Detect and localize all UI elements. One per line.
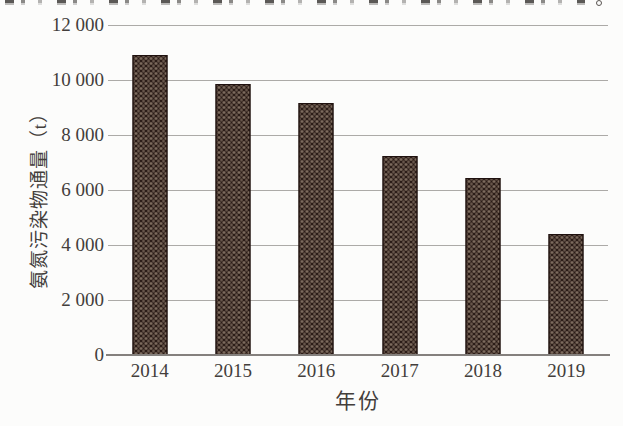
y-tick-label: 2 000 [24,290,104,310]
x-axis-line [106,354,610,356]
x-tick-label: 2015 [191,361,274,381]
x-tick-label: 2014 [108,361,191,381]
bar-2018 [465,178,500,355]
category-slot-2015: 2015 [191,25,274,355]
y-tick-label: 4 000 [24,235,104,255]
y-tick-label: 8 000 [24,125,104,145]
x-tick-label: 2016 [275,361,358,381]
y-tick-label: 6 000 [24,180,104,200]
y-tick-label: 10 000 [24,70,104,90]
cropped-text-period-glyph [596,0,602,6]
x-tick-label: 2018 [441,361,524,381]
category-slot-2016: 2016 [275,25,358,355]
bar-2014 [132,55,167,355]
y-tick-label: 0 [24,345,104,365]
ammonia-flux-bar-chart: 氨氮污染物通量（t） 201420152016201720182019 12 0… [0,0,623,426]
plot-area: 201420152016201720182019 [108,25,608,355]
cropped-text-remnant [5,0,585,5]
bars-layer: 201420152016201720182019 [108,25,608,355]
bar-2019 [549,234,584,355]
category-slot-2019: 2019 [525,25,608,355]
category-slot-2018: 2018 [441,25,524,355]
bar-2015 [215,84,250,355]
x-axis-title: 年份 [108,384,608,414]
y-tick-label: 12 000 [24,15,104,35]
bar-2017 [382,156,417,355]
category-slot-2014: 2014 [108,25,191,355]
category-slot-2017: 2017 [358,25,441,355]
bar-2016 [299,103,334,355]
x-tick-label: 2017 [358,361,441,381]
x-tick-label: 2019 [525,361,608,381]
